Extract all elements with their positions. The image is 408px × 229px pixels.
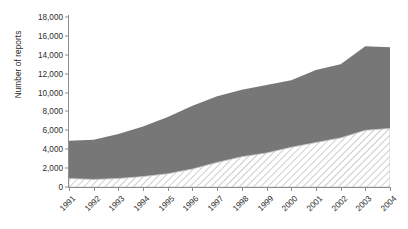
y-axis-tick-label: 16,000 xyxy=(17,31,69,40)
y-axis-tick-label: 10,000 xyxy=(17,88,69,97)
x-axis-tick-mark xyxy=(267,187,268,191)
x-axis-tick-mark xyxy=(143,187,144,191)
x-axis-tick-mark xyxy=(192,187,193,191)
area-chart: Number of reports 02,0004,0006,0008,0001… xyxy=(0,0,408,229)
x-axis-tick-mark xyxy=(94,187,95,191)
x-axis-tick-mark xyxy=(316,187,317,191)
y-axis-tick-mark xyxy=(65,130,69,131)
x-axis-tick-mark xyxy=(118,187,119,191)
x-axis-tick-mark xyxy=(365,187,366,191)
plot-area: 02,0004,0006,0008,00010,00012,00014,0001… xyxy=(69,17,390,187)
y-axis-tick-mark xyxy=(65,111,69,112)
y-axis-tick-mark xyxy=(65,73,69,74)
x-axis-tick-mark xyxy=(390,187,391,191)
y-axis-tick-label: 8,000 xyxy=(17,107,69,116)
y-axis-tick-mark xyxy=(65,149,69,150)
y-axis-tick-label: 12,000 xyxy=(17,69,69,78)
y-axis-tick-label: 4,000 xyxy=(17,145,69,154)
x-axis-tick-mark xyxy=(217,187,218,191)
y-axis-tick-label: 6,000 xyxy=(17,126,69,135)
series-layer xyxy=(69,17,390,187)
y-axis-tick-label: 18,000 xyxy=(17,13,69,22)
y-axis-tick-mark xyxy=(65,168,69,169)
y-axis-tick-mark xyxy=(65,92,69,93)
x-axis-tick-mark xyxy=(242,187,243,191)
x-axis-tick-mark xyxy=(291,187,292,191)
y-axis-tick-label: 0 xyxy=(17,183,69,192)
y-axis-tick-mark xyxy=(65,54,69,55)
y-axis-tick-mark xyxy=(65,17,69,18)
x-axis-tick-mark xyxy=(168,187,169,191)
x-axis-line xyxy=(68,187,391,188)
x-axis-tick-mark xyxy=(69,187,70,191)
y-axis-tick-mark xyxy=(65,35,69,36)
y-axis-tick-label: 2,000 xyxy=(17,164,69,173)
x-axis-tick-mark xyxy=(341,187,342,191)
y-axis-tick-label: 14,000 xyxy=(17,50,69,59)
